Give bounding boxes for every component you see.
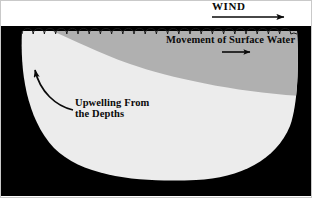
upwelling-label-line1: Upwelling From [75,97,149,108]
upwelling-label-line2: the Depths [75,108,149,119]
upwelling-label: Upwelling From the Depths [75,97,149,119]
diagram-canvas [0,0,312,198]
surface-movement-label: Movement of Surface Water [166,34,295,45]
figure-root: WIND Movement of Surface Water Upwelling… [0,0,312,198]
sky-band [0,0,312,26]
diagram-stage: WIND Movement of Surface Water Upwelling… [0,0,312,198]
wind-label: WIND [212,1,246,13]
